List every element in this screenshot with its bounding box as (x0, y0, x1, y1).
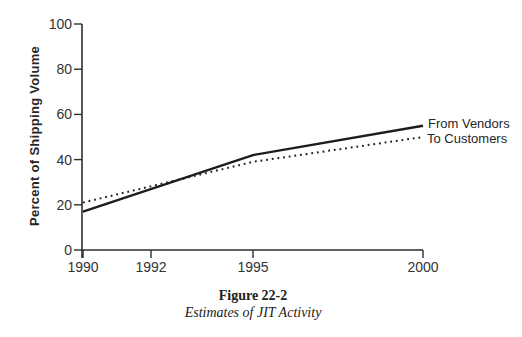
x-tick-label-1990: 1990 (58, 259, 108, 275)
y-tick-label-80: 80 (38, 61, 72, 77)
chart-canvas (0, 0, 522, 337)
series-label-from-vendors: From Vendors (428, 116, 510, 131)
series-line-to-customers (83, 137, 423, 203)
y-tick-label-40: 40 (38, 152, 72, 168)
figure-number: Figure 22-2 (113, 288, 393, 304)
x-tick-label-1995: 1995 (228, 259, 278, 275)
figure-container: Percent of Shipping Volume 020406080100 … (0, 0, 522, 337)
y-tick-label-20: 20 (38, 197, 72, 213)
figure-title: Estimates of JIT Activity (113, 305, 393, 321)
series-line-from-vendors (83, 126, 423, 212)
x-tick-label-1992: 1992 (126, 259, 176, 275)
series-label-to-customers: To Customers (427, 131, 507, 146)
y-tick-label-60: 60 (38, 106, 72, 122)
figure-caption: Figure 22-2 Estimates of JIT Activity (113, 288, 393, 321)
x-tick-label-2000: 2000 (398, 259, 448, 275)
y-tick-label-0: 0 (38, 242, 72, 258)
y-tick-label-100: 100 (38, 16, 72, 32)
